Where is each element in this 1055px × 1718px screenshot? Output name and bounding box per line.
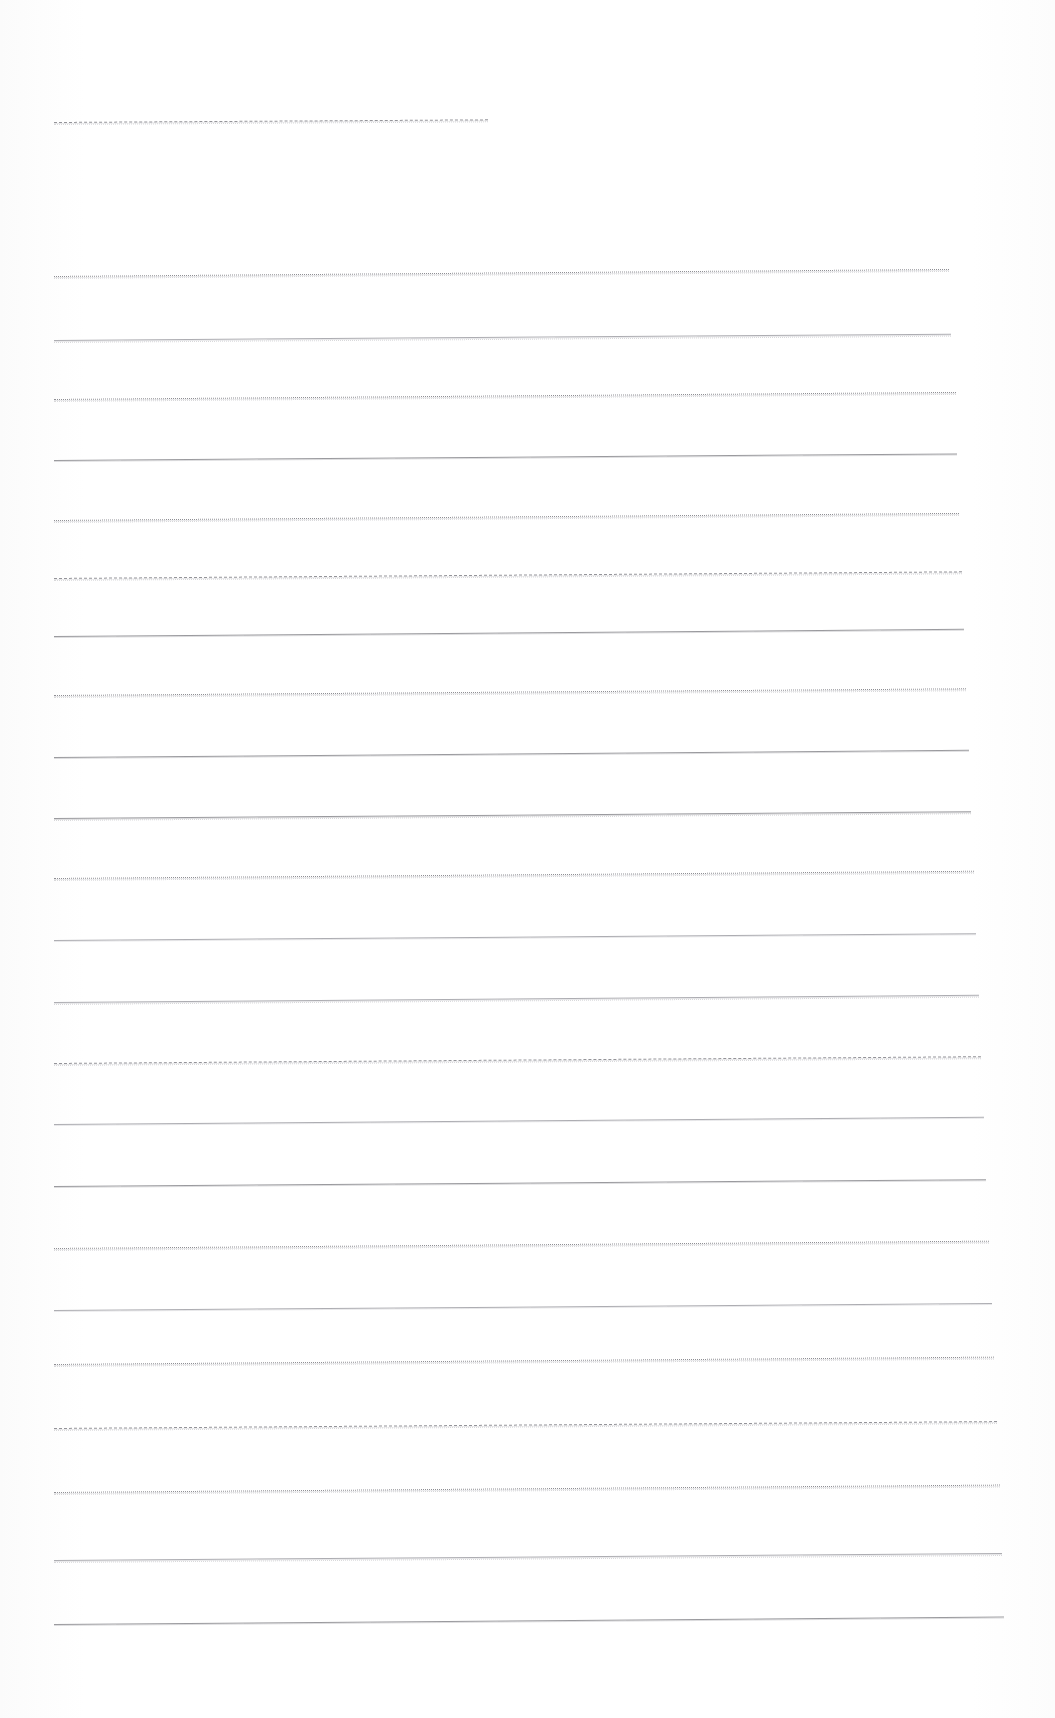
rule-8-stroke [54,688,966,696]
page-footer-margin [0,1658,1055,1718]
rule-18 [54,1303,992,1310]
rule-12-stroke [54,933,976,941]
rule-10-scan-ghost [54,813,971,821]
rule-15 [54,1117,984,1124]
rule-20-scan-ghost [54,1423,997,1431]
rule-11-scan-ghost [54,873,974,881]
rule-20-stroke [54,1421,997,1429]
rule-11-stroke [54,871,974,879]
rule-19-stroke [54,1357,994,1365]
rule-9-stroke [54,750,969,758]
rule-6 [54,571,962,578]
paper-background [0,0,1055,1718]
rule-19 [54,1357,994,1364]
rule-4-stroke [54,453,957,461]
rule-10 [54,811,971,818]
rule-14-stroke [54,1056,981,1064]
rule-5-stroke [54,513,959,521]
rule-11 [54,871,974,878]
rule-21 [54,1485,1000,1492]
rule-23 [54,1617,1004,1624]
rule-5-scan-ghost [54,515,959,523]
rule-8 [54,688,966,695]
rule-13-stroke [54,995,979,1003]
rule-3-scan-ghost [54,394,956,402]
rule-8-scan-ghost [54,690,966,698]
rule-6-stroke [54,571,962,579]
rule-1 [54,269,949,276]
header-rule [54,119,488,122]
rule-1-scan-ghost [54,271,949,279]
rule-16-stroke [54,1179,986,1187]
scanned-page [0,0,1055,1718]
rule-6-scan-ghost [54,573,962,581]
rule-14-scan-ghost [54,1058,981,1066]
rule-2-stroke [54,334,951,341]
rule-14 [54,1056,981,1063]
rule-17 [54,1241,989,1248]
rule-13 [54,995,979,1002]
rule-10-stroke [54,811,971,819]
rule-15-stroke [54,1117,984,1125]
rule-2-scan-ghost [54,336,951,343]
rule-19-scan-ghost [54,1359,994,1367]
rule-17-stroke [54,1241,989,1249]
rule-18-stroke [54,1303,992,1311]
rule-17-scan-ghost [54,1243,989,1251]
rule-23-stroke [54,1617,1004,1625]
rule-7-stroke [54,629,964,637]
rule-22-scan-ghost [54,1555,1002,1563]
rule-5 [54,513,959,520]
rule-7 [54,629,964,636]
rule-20 [54,1421,997,1428]
rule-22 [54,1553,1002,1560]
rule-13-scan-ghost [54,997,979,1005]
rule-1-stroke [54,269,949,277]
rule-4 [54,453,957,460]
rule-16 [54,1179,986,1186]
header-rule-stroke [54,119,488,123]
rule-9 [54,750,969,757]
header-rule-scan-ghost [54,121,488,125]
rule-21-stroke [54,1485,1000,1493]
rule-21-scan-ghost [54,1487,1000,1495]
rule-3-stroke [54,392,956,400]
rule-22-stroke [54,1553,1002,1561]
rule-2 [54,334,951,340]
rule-12 [54,933,976,940]
rule-3 [54,392,956,399]
